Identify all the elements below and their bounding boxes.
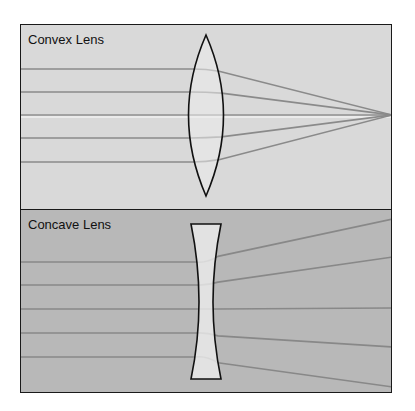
concave-lens-shape <box>191 224 221 379</box>
convex-lens-panel: Convex Lens <box>20 24 392 211</box>
concave-lens-panel: Concave Lens <box>20 209 392 393</box>
convex-lens-shape <box>189 35 224 196</box>
convex-lens-title: Convex Lens <box>28 32 104 47</box>
convex-lens-diagram <box>21 25 392 211</box>
concave-lens-title: Concave Lens <box>28 217 111 232</box>
concave-lens-diagram <box>21 210 392 393</box>
